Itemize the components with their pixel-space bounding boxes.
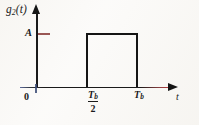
xtick-tb-half-denominator: 2 [78, 102, 108, 114]
origin-label: 0 [24, 92, 29, 102]
xtick-label-tb: Tb [127, 90, 151, 101]
origin-tick-mark [35, 84, 37, 93]
y-axis-label-argument: (t) [16, 3, 27, 15]
xtick-tb-subscript: b [140, 92, 144, 101]
xtick-tb-half-numerator: Tb [88, 90, 98, 102]
xtick-tb-half-numerator-subscript: b [94, 92, 98, 101]
x-axis-label: t [176, 92, 179, 102]
amplitude-tick-mark [38, 33, 50, 35]
amplitude-label: A [25, 28, 32, 39]
rectangular-pulse-trace [86, 33, 138, 87]
y-axis-arrowhead-icon [32, 4, 40, 14]
xtick-label-tb-half: Tb 2 [78, 90, 108, 114]
y-axis-label: g2(t) [6, 4, 27, 17]
x-axis-arrowhead-icon [168, 83, 178, 91]
signal-plot-figure: g2(t) A 0 t Tb 2 Tb [0, 0, 199, 125]
y-axis-line [36, 12, 38, 88]
